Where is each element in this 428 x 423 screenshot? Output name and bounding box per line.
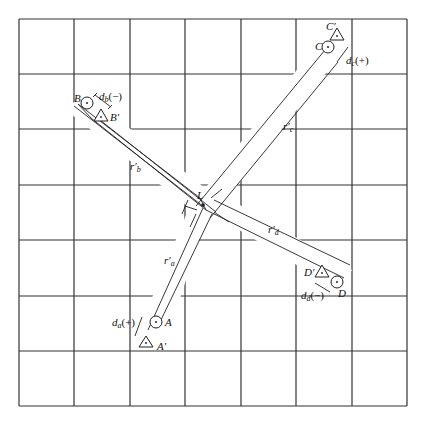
point-a-prime-triangle	[139, 336, 153, 347]
station-l-label: L	[196, 189, 203, 201]
point-c-label: C	[315, 40, 323, 52]
radius-c-label: r′c	[283, 120, 294, 134]
diagram: L B B′ db(−) r′b C C′ dc(+) r′c A A′	[0, 0, 428, 423]
point-a-label: A	[164, 316, 172, 328]
station-l-dot	[201, 203, 205, 207]
point-b-prime-label: B′	[110, 111, 120, 123]
disp-c-label: dc(+)	[346, 54, 369, 68]
disp-a-label: da(+)	[112, 316, 135, 330]
disp-b-label: db(−)	[99, 90, 122, 104]
disp-d-label: dd(−)	[301, 289, 324, 303]
point-d-prime-label: D′	[303, 266, 315, 278]
point-d-label: D	[337, 287, 346, 299]
point-a-prime-label: A′	[156, 340, 167, 352]
point-c-prime-label: C′	[326, 20, 336, 32]
point-b-label: B	[74, 92, 81, 104]
radius-d-label: r′d	[268, 223, 280, 237]
